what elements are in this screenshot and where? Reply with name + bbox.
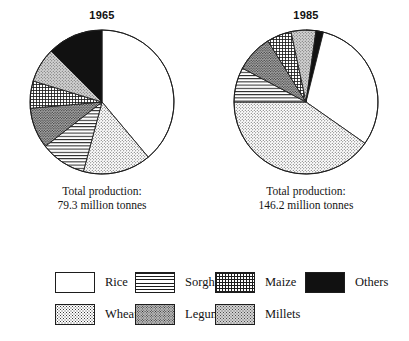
pie-chart-1985 [231,27,381,177]
total-production-1985: Total production: 146.2 million tonnes [204,185,408,212]
legend-item-millets[interactable]: Millets [215,302,300,326]
legend-label-others: Others [355,275,388,290]
panel-title-1985: 1985 [204,9,408,21]
pie-chart-1965 [27,27,177,177]
legend-row-1: RiceSorghumMaizeOthers [0,270,409,296]
legend-swatch-others-icon [305,272,345,293]
legend-item-wheat[interactable]: Wheat [55,302,138,326]
pie-svg-1985 [231,27,381,177]
legend-swatch-maize-icon [215,272,255,293]
total-production-1965: Total production: 79.3 million tonnes [0,185,204,212]
pie-slices-1985 [234,30,378,174]
legend-item-maize[interactable]: Maize [215,270,296,294]
total-value-1985: 146.2 million tonnes [204,199,408,213]
legend: RiceSorghumMaizeOthers WheatLegumesMille… [0,262,409,341]
legend-swatch-legumes-icon [135,304,175,325]
legend-item-others[interactable]: Others [305,270,388,294]
legend-swatch-rice-icon [55,272,95,293]
pie-panel-1985: 1985 [204,0,408,265]
pie-svg-1965 [27,27,177,177]
legend-label-millets: Millets [265,307,300,322]
legend-item-rice[interactable]: Rice [55,270,128,294]
legend-label-rice: Rice [105,275,128,290]
total-value-1965: 79.3 million tonnes [0,199,204,213]
legend-swatch-millets-icon [215,304,255,325]
figure-root: 1965 [0,0,409,341]
total-label-1985: Total production: [266,185,345,197]
pie-slices-1965 [30,30,174,174]
legend-swatch-wheat-icon [55,304,95,325]
legend-row-2: WheatLegumesMillets [0,302,409,328]
legend-label-maize: Maize [265,275,296,290]
legend-swatch-sorghum-icon [135,272,175,293]
legend-label-wheat: Wheat [105,307,138,322]
total-label-1965: Total production: [62,185,141,197]
pie-panel-1965: 1965 [0,0,204,265]
panel-title-1965: 1965 [0,9,204,21]
